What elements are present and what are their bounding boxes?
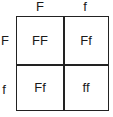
side-allele-1: F <box>0 34 10 47</box>
cell-1-2: Ff <box>63 17 109 64</box>
top-allele-2: f <box>79 0 91 13</box>
cell-1-1: FF <box>17 17 63 64</box>
top-allele-1: F <box>34 0 46 13</box>
side-allele-2: f <box>0 83 8 96</box>
cell-2-2: ff <box>63 64 109 111</box>
cell-2-1: Ff <box>17 64 63 111</box>
punnett-square: FF Ff Ff ff <box>16 16 109 111</box>
